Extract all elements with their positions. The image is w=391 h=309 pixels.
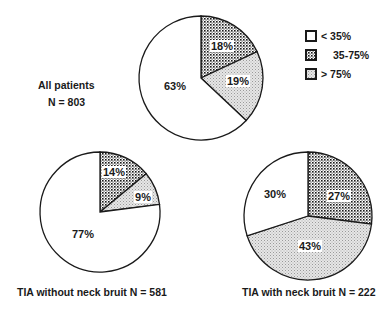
legend-label-mid: 35-75%: [333, 49, 369, 61]
pie-without-label-low: 77%: [71, 228, 95, 240]
legend-label-high: > 75%: [321, 68, 351, 80]
pie-with-label-mid: 27%: [327, 190, 351, 202]
pie-tia-without-bruit: [40, 152, 160, 272]
legend-item-mid: 35-75%: [305, 49, 369, 61]
legend-label-low: < 35%: [321, 30, 351, 42]
all-patients-count: N = 803: [48, 96, 85, 108]
tia-without-bruit-title: TIA without neck bruit N = 581: [17, 286, 167, 298]
pie-with-label-high: 43%: [298, 240, 322, 252]
legend-item-high: > 75%: [305, 68, 351, 80]
all-patients-title: All patients: [38, 79, 95, 91]
pie-all-label-low: 63%: [163, 80, 187, 92]
legend-swatch-mid: [305, 49, 317, 61]
legend-item-low: < 35%: [305, 30, 351, 42]
pie-tia-with-bruit: [244, 152, 372, 280]
pie-all-label-mid: 18%: [210, 40, 234, 52]
pie-slice-mid: [308, 152, 372, 224]
pie-without-label-high: 9%: [134, 191, 152, 203]
legend-swatch-low: [305, 30, 317, 42]
pie-without-label-mid: 14%: [102, 166, 126, 178]
tia-with-bruit-title: TIA with neck bruit N = 222: [242, 286, 376, 298]
pie-charts-canvas: [0, 0, 391, 309]
pie-with-label-low: 30%: [263, 188, 287, 200]
legend-swatch-high: [305, 68, 317, 80]
pie-all-label-high: 19%: [226, 75, 250, 87]
